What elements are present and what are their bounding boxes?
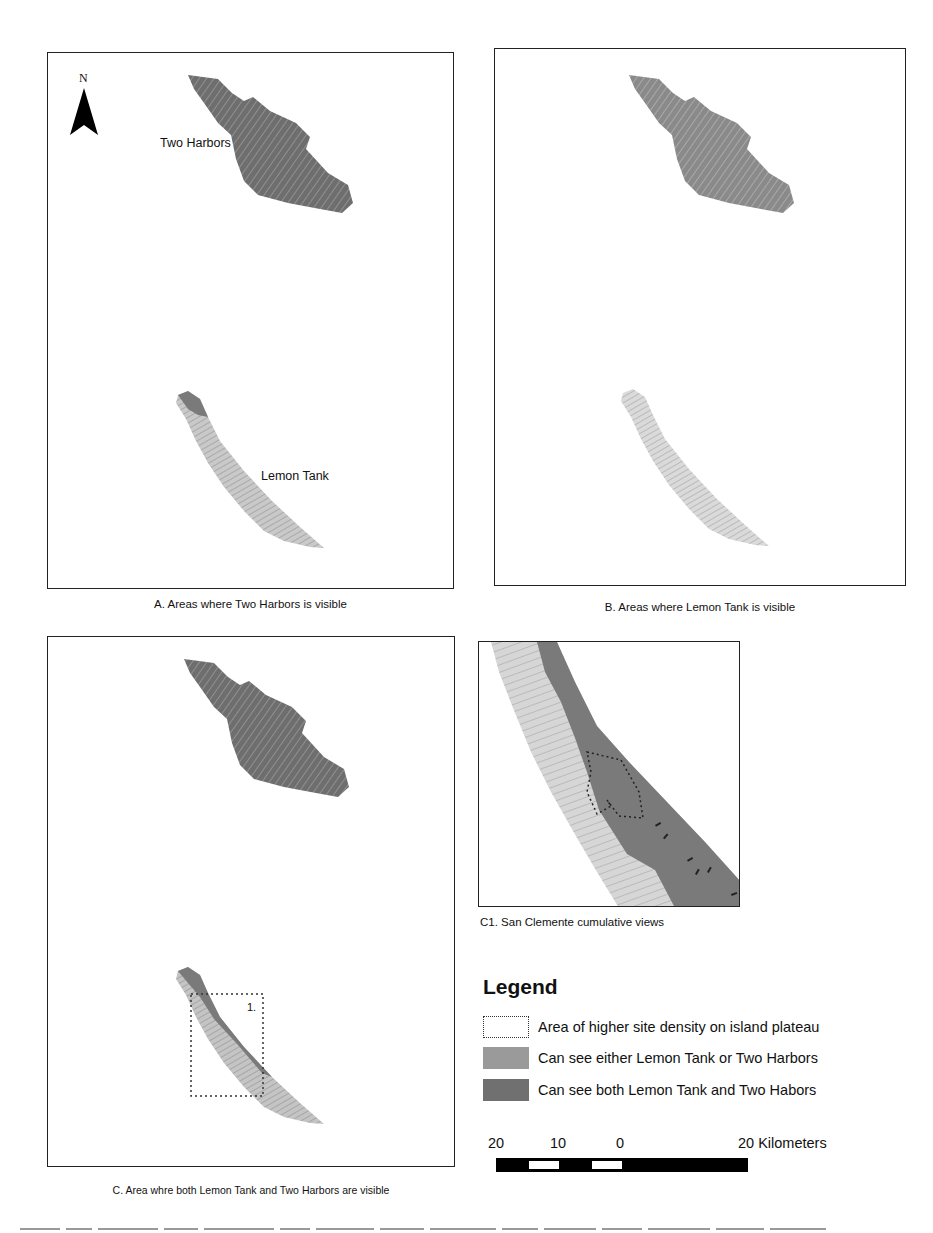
legend-item-either: Can see either Lemon Tank or Two Harbors: [483, 1047, 818, 1069]
catalina-island-shape: [184, 659, 349, 797]
map-panel-a-canvas: [48, 53, 454, 589]
scale-bar-segment: [529, 1161, 559, 1169]
dotted-outline-swatch-icon: [483, 1016, 529, 1038]
legend-label: Can see both Lemon Tank and Two Habors: [538, 1082, 816, 1098]
scale-bar-segment: [592, 1161, 622, 1169]
caption-panel-c: C. Area whre both Lemon Tank and Two Har…: [47, 1184, 455, 1196]
map-panel-c1-canvas: [479, 642, 740, 907]
light-gray-swatch-icon: [483, 1047, 529, 1069]
inset-marker-label: 1.: [247, 1001, 256, 1013]
north-label: N: [79, 71, 88, 86]
legend-item-density: Area of higher site density on island pl…: [483, 1016, 819, 1038]
legend-label: Area of higher site density on island pl…: [538, 1019, 819, 1035]
two-harbors-label: Two Harbors: [160, 136, 231, 150]
caption-panel-b: B. Areas where Lemon Tank is visible: [494, 601, 906, 613]
dark-gray-swatch-icon: [483, 1079, 529, 1101]
map-panel-b: [494, 48, 906, 586]
map-panel-a: N Two Harbors Lemon Tank: [47, 52, 454, 589]
map-panel-c: 1.: [47, 636, 455, 1167]
scale-tick-20-left: 20: [488, 1135, 504, 1151]
north-arrow-icon: [70, 88, 98, 135]
san-clemente-island-shape: [621, 389, 769, 546]
caption-panel-c1: C1. San Clemente cumulative views: [480, 916, 664, 928]
caption-panel-a: A. Areas where Two Harbors is visible: [47, 598, 454, 610]
scale-tick-20-right: 20 Kilometers: [738, 1135, 827, 1151]
legend-label: Can see either Lemon Tank or Two Harbors: [538, 1050, 818, 1066]
lemon-tank-label: Lemon Tank: [261, 469, 329, 483]
scale-tick-10: 10: [550, 1135, 566, 1151]
scale-bar: [496, 1158, 748, 1172]
map-panel-b-canvas: [495, 49, 906, 586]
legend-item-both: Can see both Lemon Tank and Two Habors: [483, 1079, 816, 1101]
cropped-caption-line: [20, 1228, 920, 1233]
map-panel-c1: [478, 641, 740, 907]
scale-tick-0: 0: [616, 1135, 624, 1151]
legend-title: Legend: [483, 975, 558, 999]
map-panel-c-canvas: [48, 637, 455, 1167]
catalina-island-shape: [629, 75, 794, 213]
